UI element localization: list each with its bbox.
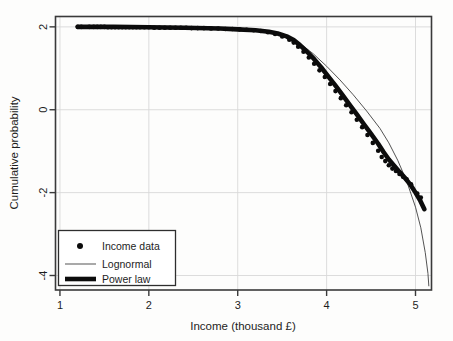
x-tick-label: 3 bbox=[235, 299, 241, 311]
data-point bbox=[138, 25, 143, 30]
data-point bbox=[189, 26, 194, 31]
data-point bbox=[312, 61, 317, 66]
data-point bbox=[397, 172, 402, 177]
y-tick-label: 0 bbox=[38, 107, 50, 113]
y-tick-label: -2 bbox=[38, 188, 50, 198]
data-point bbox=[195, 26, 200, 31]
data-point bbox=[157, 25, 162, 30]
data-point bbox=[202, 26, 207, 31]
legend-label-income-data: Income data bbox=[102, 240, 160, 252]
legend-label-lognormal: Lognormal bbox=[102, 258, 152, 270]
data-point bbox=[244, 27, 249, 32]
data-point bbox=[355, 117, 360, 122]
data-point bbox=[419, 195, 424, 200]
data-point bbox=[163, 25, 168, 30]
data-point bbox=[333, 89, 338, 94]
x-tick-label: 4 bbox=[324, 299, 330, 311]
x-tick-label: 2 bbox=[146, 299, 152, 311]
data-point bbox=[280, 34, 285, 39]
data-point bbox=[147, 25, 152, 30]
x-axis-title: Income (thousand £) bbox=[190, 320, 296, 332]
data-point bbox=[173, 25, 178, 30]
data-point bbox=[328, 82, 333, 87]
data-point bbox=[317, 68, 322, 73]
data-point bbox=[266, 30, 271, 35]
y-tick-label: 2 bbox=[38, 24, 50, 30]
data-point bbox=[379, 155, 384, 160]
data-point bbox=[251, 28, 256, 33]
chart-legend: Income data Lognormal Power law bbox=[59, 231, 176, 286]
legend-label-power-law: Power law bbox=[102, 273, 151, 285]
data-point bbox=[376, 148, 381, 153]
data-point bbox=[291, 40, 296, 45]
data-point bbox=[216, 26, 221, 31]
data-point bbox=[307, 55, 312, 60]
data-point bbox=[387, 163, 392, 168]
y-tick-label: -4 bbox=[38, 271, 50, 281]
data-point bbox=[87, 25, 92, 30]
data-point bbox=[409, 182, 414, 187]
data-point bbox=[349, 110, 354, 115]
data-point bbox=[79, 25, 84, 30]
chart-figure: 12345 20-2-4 Income (thousand £) Cumulat… bbox=[0, 0, 453, 341]
data-point bbox=[360, 125, 365, 130]
data-point bbox=[404, 177, 409, 182]
data-point bbox=[168, 25, 173, 30]
data-point bbox=[394, 169, 399, 174]
data-point bbox=[296, 44, 301, 49]
data-point bbox=[371, 141, 376, 146]
data-point bbox=[383, 159, 388, 164]
data-point bbox=[323, 75, 328, 80]
data-point bbox=[344, 103, 349, 108]
data-point bbox=[237, 27, 242, 32]
x-tick-label: 1 bbox=[57, 299, 63, 311]
data-point bbox=[209, 26, 214, 31]
data-point bbox=[230, 27, 235, 32]
y-axis-title: Cumulative probability bbox=[8, 96, 20, 209]
data-point bbox=[259, 29, 264, 34]
data-point bbox=[184, 25, 189, 30]
data-point bbox=[223, 27, 228, 32]
data-point bbox=[287, 37, 292, 42]
income-distribution-chart: 12345 20-2-4 Income (thousand £) Cumulat… bbox=[0, 0, 453, 341]
x-tick-label: 5 bbox=[412, 299, 418, 311]
data-point bbox=[179, 25, 184, 30]
data-point bbox=[152, 25, 157, 30]
data-point bbox=[339, 96, 344, 101]
data-point bbox=[365, 133, 370, 138]
data-point bbox=[142, 25, 147, 30]
data-point bbox=[273, 32, 278, 37]
data-point bbox=[301, 49, 306, 54]
data-point bbox=[415, 191, 420, 196]
legend-marker-income-data bbox=[77, 243, 83, 249]
